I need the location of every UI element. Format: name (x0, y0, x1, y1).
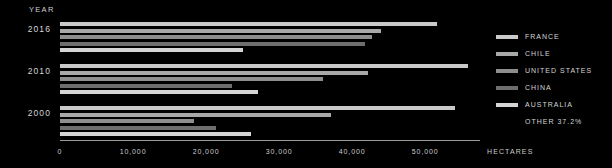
legend-other-label: OTHER 37.2% (525, 118, 582, 125)
bar (60, 126, 216, 130)
bar (60, 90, 258, 94)
legend-swatch-icon (496, 52, 518, 56)
legend-item-china[interactable]: CHINA (496, 79, 592, 96)
x-tick-label: 50,000 (412, 148, 439, 155)
y-axis-label-2000: 2000 (28, 108, 51, 118)
legend-item-label: UNITED STATES (525, 67, 592, 74)
x-tick-label: 40,000 (339, 148, 366, 155)
plot-area: 201620102000 (60, 22, 480, 142)
legend-item-other: OTHER 37.2% (496, 113, 592, 130)
legend-swatch-icon (496, 69, 518, 73)
bar (60, 119, 194, 123)
bar-chart: YEAR 201620102000 010,00020,00030,00040,… (0, 0, 612, 168)
legend-item-label: CHINA (525, 84, 552, 91)
bar (60, 42, 365, 46)
legend-item-australia[interactable]: AUSTRALIA (496, 96, 592, 113)
x-tick-label: 10,000 (120, 148, 147, 155)
x-axis-title: HECTARES (487, 148, 533, 155)
bar (60, 77, 323, 81)
bar (60, 22, 437, 26)
legend-item-chile[interactable]: CHILE (496, 45, 592, 62)
bar (60, 48, 243, 52)
x-axis-line (60, 140, 480, 141)
legend-item-united-states[interactable]: UNITED STATES (496, 62, 592, 79)
x-tick-label: 20,000 (193, 148, 220, 155)
legend-item-label: FRANCE (525, 33, 560, 40)
bar (60, 64, 468, 68)
bar (60, 106, 455, 110)
bar (60, 29, 381, 33)
bar (60, 132, 251, 136)
legend-swatch-icon (496, 86, 518, 90)
legend-swatch-icon (496, 35, 518, 39)
x-tick-label: 30,000 (266, 148, 293, 155)
legend-item-label: AUSTRALIA (525, 101, 573, 108)
bar (60, 113, 331, 117)
legend-item-france[interactable]: FRANCE (496, 28, 592, 45)
y-axis-label-2010: 2010 (28, 66, 51, 76)
legend-swatch-icon (496, 103, 518, 107)
legend: FRANCECHILEUNITED STATESCHINAAUSTRALIAOT… (496, 28, 592, 130)
bar (60, 35, 372, 39)
bar (60, 71, 368, 75)
legend-item-label: CHILE (525, 50, 551, 57)
x-tick-label: 0 (58, 148, 63, 155)
y-axis-label-2016: 2016 (28, 24, 51, 34)
y-axis-title: YEAR (29, 5, 55, 14)
bar (60, 84, 232, 88)
